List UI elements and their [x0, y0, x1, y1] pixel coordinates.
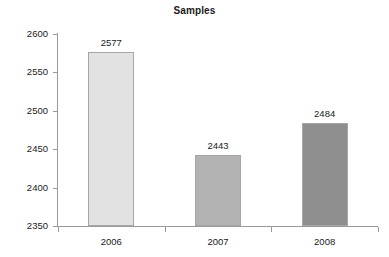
y-tick-label: 2600: [2, 29, 48, 39]
x-category-label-2006: 2006: [81, 236, 141, 247]
bar-value-label-2006: 2577: [81, 37, 141, 48]
x-tick-mark: [165, 227, 166, 232]
y-tick-label: 2500: [2, 106, 48, 116]
bar-chart: Samples 235024002450250025502600 2006200…: [0, 0, 389, 257]
x-category-label-2008: 2008: [295, 236, 355, 247]
y-tick-label: 2550: [2, 67, 48, 77]
plot-area: [58, 34, 378, 226]
bar-value-label-2008: 2484: [295, 108, 355, 119]
bar-2006[interactable]: [88, 52, 134, 226]
x-axis-line: [57, 226, 378, 227]
y-tick-label: 2350: [2, 221, 48, 231]
x-tick-mark: [378, 227, 379, 232]
chart-title: Samples: [0, 5, 389, 16]
y-tick-label: 2450: [2, 144, 48, 154]
bar-2008[interactable]: [302, 123, 348, 226]
x-tick-mark: [271, 227, 272, 232]
bar-value-label-2007: 2443: [188, 140, 248, 151]
x-tick-mark: [58, 227, 59, 232]
y-tick-label: 2400: [2, 183, 48, 193]
x-category-label-2007: 2007: [188, 236, 248, 247]
bar-2007[interactable]: [195, 155, 241, 226]
